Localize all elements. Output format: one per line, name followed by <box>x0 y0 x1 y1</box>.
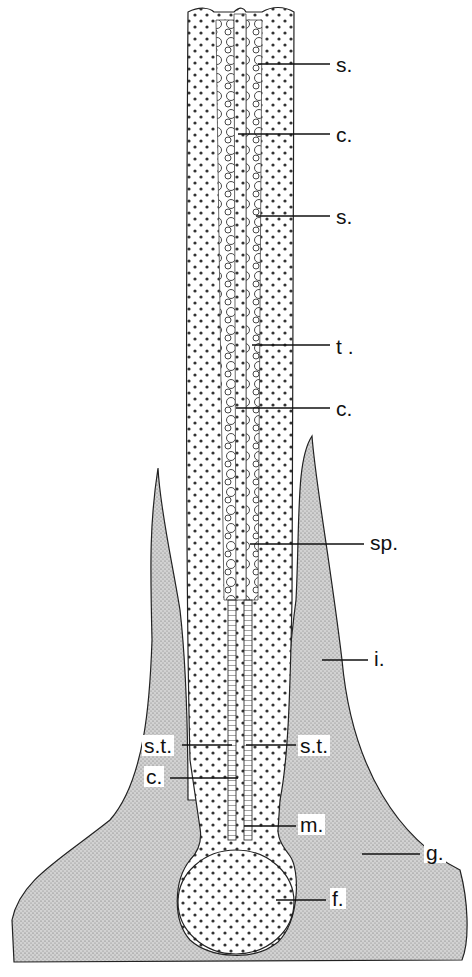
tube-left <box>228 600 236 840</box>
label-s-middle: s. <box>334 206 354 227</box>
label-c-upper: c. <box>334 124 354 145</box>
tube-right <box>244 600 252 840</box>
label-st-right: s.t. <box>298 735 330 756</box>
label-st-left: s.t. <box>142 735 174 756</box>
label-s-upper: s. <box>334 54 354 75</box>
label-g: g. <box>424 842 446 863</box>
label-c-middle: c. <box>334 398 354 419</box>
label-sp: sp. <box>368 532 400 553</box>
label-m: m. <box>298 814 325 835</box>
label-i: i. <box>372 648 387 669</box>
label-t: t . <box>334 336 356 357</box>
label-f: f. <box>330 888 346 909</box>
follicle-diagram <box>0 0 472 977</box>
label-c-lower: c. <box>144 766 164 787</box>
central-strip <box>234 14 246 600</box>
bulb-f <box>178 850 294 954</box>
